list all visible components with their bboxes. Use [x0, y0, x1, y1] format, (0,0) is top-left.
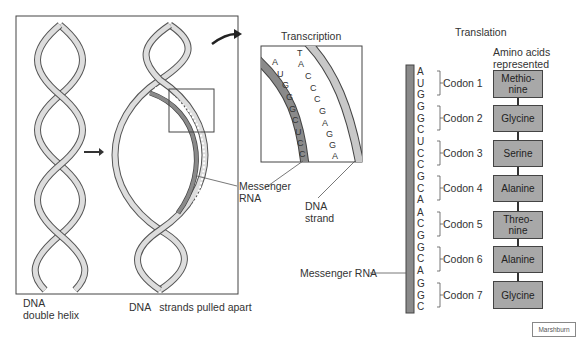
dna-strands-apart [115, 25, 205, 290]
curved-arrow-icon [212, 34, 236, 44]
codon-label-3: Codon 3 [443, 147, 483, 159]
amino-acids-header: Amino acids represented [493, 46, 550, 70]
artist-credit: Marshburn [532, 322, 576, 337]
amino-acid-box: Alanine [493, 175, 543, 202]
codon-label-2: Codon 2 [443, 112, 483, 124]
amino-acid-box: Methio- nine [493, 70, 543, 98]
amino-acid-box: Glycine [493, 105, 543, 132]
amino-acid-box: Serine [493, 140, 543, 167]
codon-label-4: Codon 4 [443, 182, 483, 194]
mrna-translation-label: Messenger RNA [300, 267, 377, 279]
strands-pulled-apart-label: DNA strands pulled apart [129, 301, 252, 313]
codon-label-6: Codon 6 [443, 253, 483, 265]
amino-acid-box: Threo- nine [493, 211, 543, 239]
dna-strand-label: DNA strand [305, 200, 334, 224]
transcription-title: Transcription [281, 30, 341, 42]
codon-label-5: Codon 5 [443, 218, 483, 230]
dna-double-helix [35, 25, 85, 290]
dna-double-helix-label: DNA double helix [23, 297, 79, 321]
translation-title: Translation [455, 26, 507, 38]
amino-acid-box: Alanine [493, 246, 543, 273]
amino-acid-box: Glycine [493, 281, 543, 309]
mrna-bar [406, 65, 414, 313]
messenger-rna-label: Messenger RNA [239, 180, 291, 204]
codon-label-7: Codon 7 [443, 289, 483, 301]
codon-label-1: Codon 1 [443, 77, 483, 89]
